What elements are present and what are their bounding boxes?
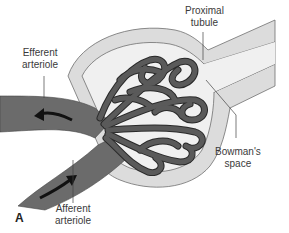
panel-label: A	[15, 211, 24, 225]
afferent-label-line2: arteriole	[55, 215, 91, 227]
renal-corpuscle-diagram	[0, 0, 289, 233]
bowman-label-line1: Bowman's	[215, 146, 261, 158]
efferent-arteriole-label: Efferent arteriole	[22, 47, 58, 71]
afferent-label-line1: Afferent	[55, 203, 91, 215]
proximal-label-line1: Proximal	[185, 5, 224, 17]
proximal-tubule-label: Proximal tubule	[185, 5, 224, 29]
efferent-label-line2: arteriole	[22, 59, 58, 71]
bowman-label-line2: space	[215, 158, 261, 170]
proximal-label-line2: tubule	[185, 17, 224, 29]
bowmans-space-label: Bowman's space	[215, 146, 261, 170]
afferent-arteriole-label: Afferent arteriole	[55, 203, 91, 227]
efferent-label-line1: Efferent	[22, 47, 58, 59]
